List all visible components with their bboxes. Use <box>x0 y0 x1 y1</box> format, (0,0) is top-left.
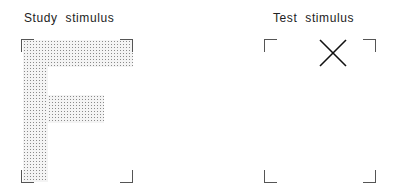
letter-f-middle-bar <box>48 95 104 123</box>
test-stimulus-label: Test stimulus <box>273 11 354 25</box>
frame-corner-bottom-right <box>120 170 133 183</box>
frame-corner-top-left <box>21 39 34 52</box>
frame-corner-top-right <box>120 39 133 52</box>
frame-corner-bottom-left <box>264 170 277 183</box>
frame-corner-top-left <box>264 39 277 52</box>
letter-f-top-bar <box>23 40 133 67</box>
test-stimulus-panel <box>264 39 376 183</box>
frame-corner-top-right <box>363 39 376 52</box>
frame-corner-bottom-right <box>363 170 376 183</box>
study-stimulus-label: Study stimulus <box>24 11 114 25</box>
frame-corner-bottom-left <box>21 170 34 183</box>
letter-f-stem <box>23 67 48 182</box>
x-mark-icon <box>318 39 348 67</box>
study-stimulus-panel <box>21 39 133 183</box>
